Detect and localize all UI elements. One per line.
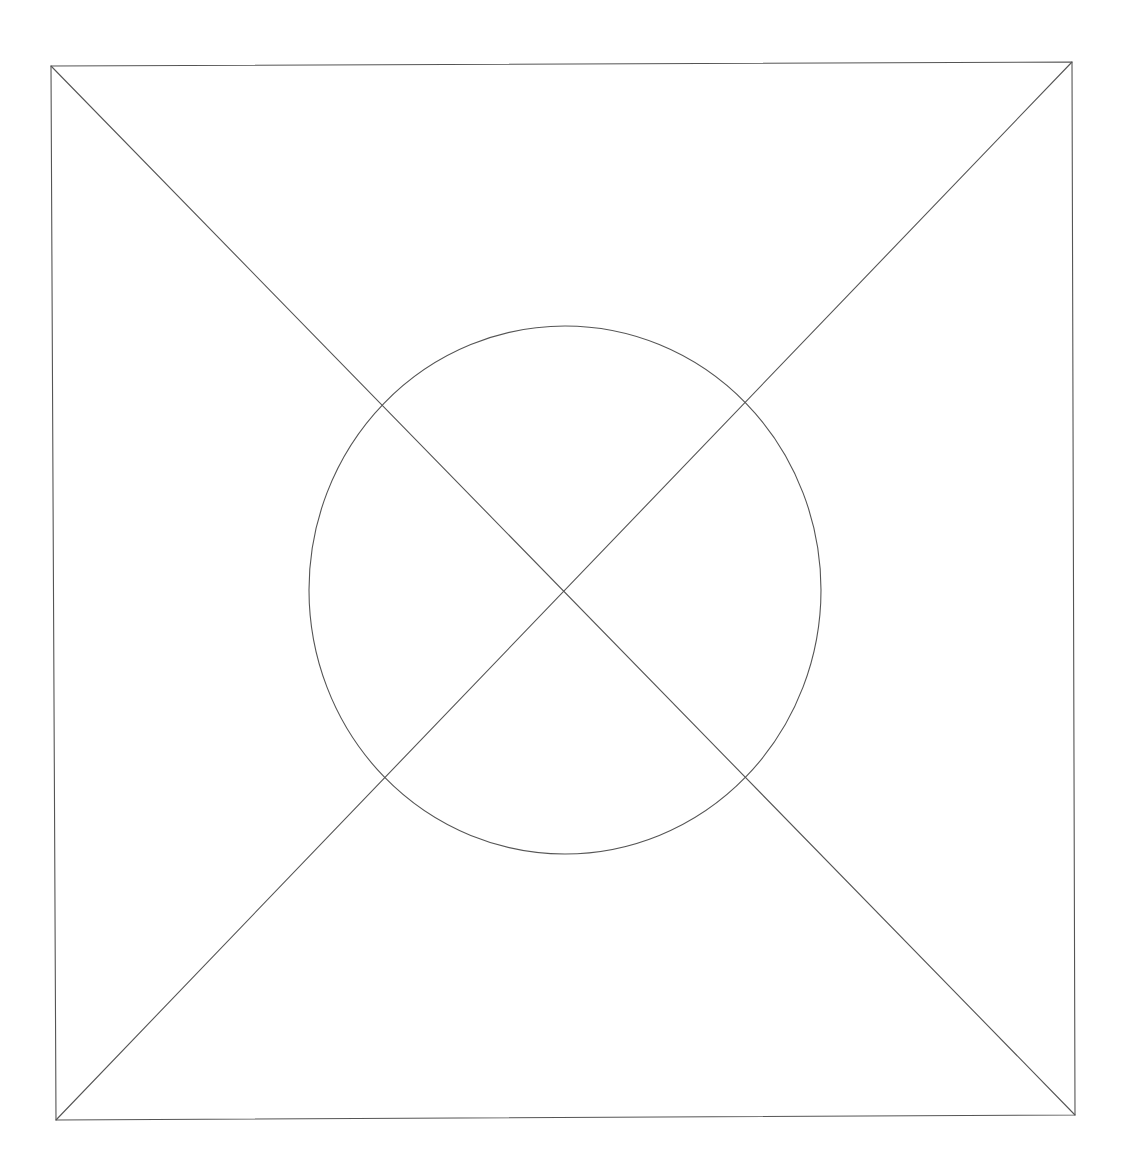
diagonal-line-top-right-to-bottom-left <box>56 62 1072 1120</box>
diagonal-line-top-left-to-bottom-right <box>51 66 1075 1115</box>
placeholder-diagram <box>0 0 1132 1167</box>
